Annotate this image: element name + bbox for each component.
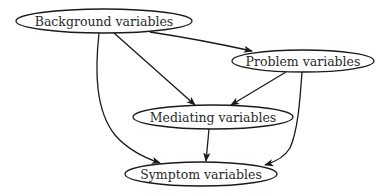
edge-background-to-mediating bbox=[114, 33, 195, 105]
edge-problem-to-mediating bbox=[231, 72, 286, 105]
causal-diagram: Background variables Problem variables M… bbox=[0, 0, 391, 196]
node-label: Background variables bbox=[35, 14, 174, 29]
node-problem-variables: Problem variables bbox=[232, 50, 374, 72]
node-symptom-variables: Symptom variables bbox=[125, 162, 277, 186]
node-label: Symptom variables bbox=[140, 167, 262, 182]
node-background-variables: Background variables bbox=[16, 9, 192, 33]
edge-mediating-to-symptom bbox=[206, 129, 209, 161]
node-label: Problem variables bbox=[246, 54, 361, 69]
node-mediating-variables: Mediating variables bbox=[133, 105, 293, 129]
node-label: Mediating variables bbox=[150, 110, 276, 125]
edge-background-to-problem bbox=[150, 32, 252, 51]
edge-background-to-symptom bbox=[97, 33, 160, 163]
